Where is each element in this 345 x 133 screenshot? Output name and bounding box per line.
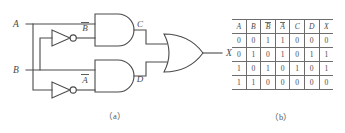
label-input-a: A	[12, 19, 19, 29]
cell-bbar: 0	[261, 76, 276, 90]
label-a-bar: A	[81, 75, 89, 86]
inverter-bottom-triangle	[52, 82, 70, 98]
cell-b: 0	[246, 34, 261, 48]
cell-a: 1	[232, 76, 246, 90]
cell-c: 0	[290, 34, 305, 48]
label-signal-c: C	[137, 19, 144, 29]
cell-x: 0	[319, 76, 333, 90]
cell-d: 0	[304, 62, 319, 76]
cell-d: 0	[304, 76, 319, 90]
truth-table: A B B A C D X 0 0 1 1 0 0 0 0 1 0 1 0 1 …	[232, 19, 333, 90]
cell-bbar: 0	[261, 48, 276, 62]
wire-a-branch-to-inverter	[33, 24, 52, 90]
cell-c: 0	[290, 76, 305, 90]
cell-abar: 0	[275, 76, 290, 90]
header-cell-d: D	[304, 20, 319, 34]
cell-b: 0	[246, 62, 261, 76]
cell-d: 1	[304, 48, 319, 62]
cell-abar: 1	[275, 48, 290, 62]
cell-d: 0	[304, 34, 319, 48]
wire-c-to-or-gate	[134, 30, 167, 44]
table-row: 1 1 0 0 0 0 0	[232, 76, 333, 90]
cell-x: 1	[319, 48, 333, 62]
and-gate-top	[95, 14, 134, 46]
cell-c: 0	[290, 48, 305, 62]
svg-text:A: A	[81, 75, 88, 85]
header-cell-x: X	[319, 20, 333, 34]
cell-x: 1	[319, 62, 333, 76]
caption-b: （b）	[252, 110, 310, 122]
truth-table-body: A B B A C D X 0 0 1 1 0 0 0 0 1 0 1 0 1 …	[232, 20, 333, 90]
cell-bbar: 1	[261, 62, 276, 76]
header-cell-a-bar: A	[275, 20, 290, 34]
cell-a: 0	[232, 48, 246, 62]
and-gate-bottom	[95, 60, 134, 92]
cell-bbar: 1	[261, 34, 276, 48]
label-input-b: B	[13, 65, 19, 75]
header-cell-b-bar: B	[261, 20, 276, 34]
cell-c: 1	[290, 62, 305, 76]
cell-a: 1	[232, 62, 246, 76]
table-row: 0 0 1 1 0 0 0	[232, 34, 333, 48]
table-row: 1 0 1 0 1 0 1	[232, 62, 333, 76]
cell-b: 1	[246, 48, 261, 62]
or-gate	[164, 34, 203, 72]
truth-table-header-row: A B B A C D X	[232, 20, 333, 34]
cell-x: 0	[319, 34, 333, 48]
cell-abar: 1	[275, 34, 290, 48]
header-cell-b: B	[246, 20, 261, 34]
inverter-top-triangle	[52, 30, 70, 46]
label-signal-d: D	[136, 74, 144, 84]
cell-b: 1	[246, 76, 261, 90]
svg-text:B: B	[82, 23, 88, 33]
header-cell-c: C	[290, 20, 305, 34]
header-cell-a: A	[232, 20, 246, 34]
caption-a: （a）	[86, 109, 144, 121]
table-row: 0 1 0 1 0 1 1	[232, 48, 333, 62]
wire-b-branch-to-inverter	[40, 38, 52, 70]
cell-abar: 0	[275, 62, 290, 76]
cell-a: 0	[232, 34, 246, 48]
